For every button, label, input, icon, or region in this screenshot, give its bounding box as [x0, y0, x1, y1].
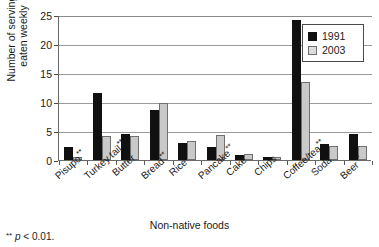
footnote-significance: ** p < 0.01. — [6, 231, 54, 242]
footnote-p-symbol: p — [15, 231, 21, 242]
bar-group — [176, 15, 198, 160]
x-tick-mark — [372, 161, 373, 165]
bar — [329, 146, 338, 160]
y-tick-label-0: 0 — [26, 156, 52, 166]
bar-group — [148, 15, 170, 160]
bar-group — [205, 15, 227, 160]
legend-label-2003: 2003 — [322, 45, 345, 56]
legend-item-1991: 1991 — [308, 29, 358, 43]
footnote-threshold: < 0.01. — [23, 231, 54, 242]
bar-group — [62, 15, 84, 160]
legend-item-2003: 2003 — [308, 43, 358, 57]
legend-swatch-1991-icon — [308, 32, 317, 41]
footnote-stars: ** — [6, 231, 12, 240]
x-axis-title: Non-native foods — [0, 219, 379, 231]
bar-group — [261, 15, 283, 160]
legend: 1991 2003 — [302, 24, 364, 62]
y-tick-label-5: 5 — [26, 127, 52, 137]
bar — [292, 20, 301, 160]
y-tick-label-20: 20 — [26, 40, 52, 50]
bar-group — [91, 15, 113, 160]
bar-group — [119, 15, 141, 160]
figure-chart: Number of servings eaten weekly 05101520… — [0, 0, 379, 247]
legend-swatch-2003-icon — [308, 46, 317, 55]
y-tick-label-10: 10 — [26, 98, 52, 108]
bar-group — [233, 15, 255, 160]
cropped-caption-sliver — [4, 0, 204, 5]
y-tick-label-15: 15 — [26, 69, 52, 79]
bar — [93, 93, 102, 160]
y-tick-mark-0 — [54, 161, 58, 162]
bar — [187, 141, 196, 160]
legend-label-1991: 1991 — [322, 31, 345, 42]
y-tick-label-25: 25 — [26, 11, 52, 21]
